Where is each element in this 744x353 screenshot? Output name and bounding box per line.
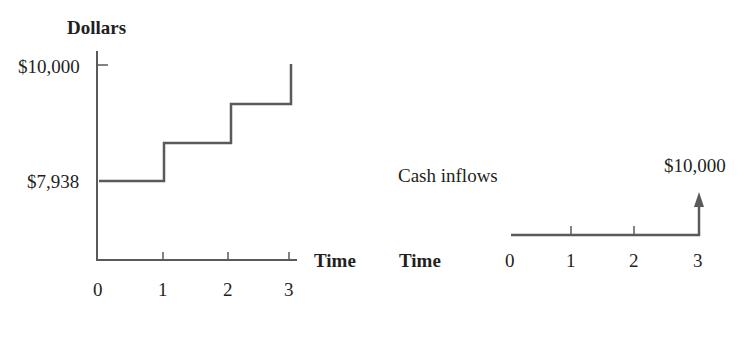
step-series-line [99, 64, 291, 181]
x-label-2: 2 [223, 280, 233, 299]
x-label-3: 3 [284, 280, 294, 299]
cash-inflow-amount: $10,000 [664, 156, 726, 175]
y-axis-title: Dollars [67, 18, 126, 37]
step-chart-graphic [0, 0, 744, 353]
cash-inflows-title: Cash inflows [398, 166, 498, 185]
timeline-axis-title: Time [399, 251, 441, 270]
y-label-bottom: $7,938 [27, 172, 79, 191]
timeline-label-2: 2 [629, 251, 639, 270]
timeline-label-1: 1 [566, 251, 576, 270]
timeline-label-0: 0 [505, 251, 515, 270]
timeline-label-3: 3 [693, 251, 703, 270]
x-label-0: 0 [93, 280, 103, 299]
cash-inflow-arrow-head-icon [694, 192, 704, 207]
y-label-top: $10,000 [18, 57, 80, 76]
x-label-1: 1 [158, 280, 168, 299]
x-axis-title-left: Time [314, 251, 356, 270]
